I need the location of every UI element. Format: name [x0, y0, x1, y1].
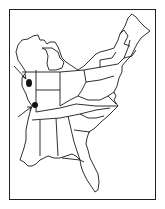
eastern-us-map: [0, 0, 165, 209]
arrow-icon: [14, 66, 26, 79]
state-borders: [22, 30, 136, 162]
range-marker-dot: [32, 102, 38, 108]
range-marker-dot: [26, 79, 32, 87]
michigan-outline: [42, 48, 64, 70]
